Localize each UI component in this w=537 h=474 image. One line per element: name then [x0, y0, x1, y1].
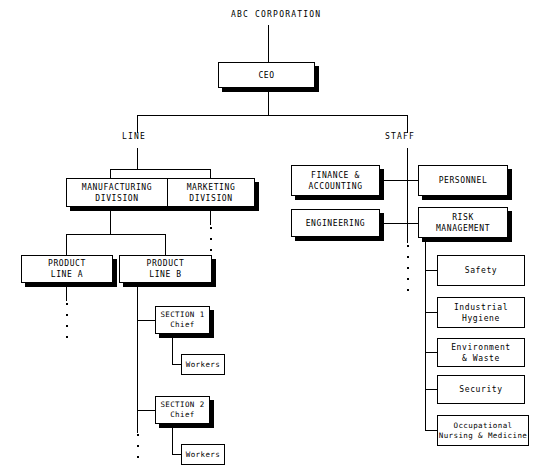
connector-staff-spine	[407, 148, 408, 243]
connector-title-to-ceo	[268, 25, 269, 62]
connector-staff-row-1	[380, 180, 418, 181]
node-safety[interactable]: Safety	[437, 255, 525, 286]
connector-product-line-a-down	[66, 287, 67, 301]
connector-line-bus	[110, 169, 211, 170]
connector-line-down	[137, 148, 138, 170]
connector-bus-to-staff	[407, 115, 408, 133]
node-product-line-a[interactable]: PRODUCT LINE A	[21, 255, 113, 283]
node-engineering[interactable]: ENGINEERING	[291, 209, 380, 237]
connector-ceo-down	[268, 88, 269, 116]
node-section-2-workers[interactable]: Workers	[181, 444, 225, 465]
connector-section-2-down	[172, 424, 173, 455]
connector-to-product-line-a	[66, 234, 67, 255]
connector-ceo-bus	[137, 115, 408, 116]
node-industrial-hygiene[interactable]: Industrial Hygiene	[437, 297, 525, 328]
connector-product-bus	[66, 234, 166, 235]
node-environment-waste[interactable]: Environment & Waste	[437, 338, 525, 367]
node-product-line-b[interactable]: PRODUCT LINE B	[119, 255, 212, 283]
node-security[interactable]: Security	[437, 375, 525, 404]
org-chart-canvas: ABC CORPORATION CEO LINE STAFF MANUFACTU…	[0, 0, 537, 474]
connector-to-section-2	[137, 410, 156, 411]
connector-manufacturing-down	[110, 211, 111, 235]
connector-to-product-line-b	[165, 234, 166, 255]
connector-bus-to-line	[137, 115, 138, 133]
node-section-1-chief[interactable]: SECTION 1 Chief	[155, 306, 210, 334]
ellipsis-staff	[407, 245, 409, 291]
ellipsis-marketing	[210, 227, 212, 251]
node-risk-management[interactable]: RISK MANAGEMENT	[418, 207, 508, 238]
connector-marketing-down	[210, 211, 211, 225]
ellipsis-product-line-a	[66, 303, 68, 345]
company-title: ABC CORPORATION	[231, 10, 321, 19]
branch-label-staff: STAFF	[385, 132, 415, 141]
node-manufacturing-division[interactable]: MANUFACTURING DIVISION	[66, 178, 168, 207]
node-ceo[interactable]: CEO	[218, 62, 315, 88]
node-personnel[interactable]: PERSONNEL	[418, 165, 508, 196]
branch-label-line: LINE	[122, 132, 146, 141]
node-occupational-nursing-medicine[interactable]: Occupational Nursing & Medicine	[437, 415, 529, 446]
connector-to-section-1	[137, 320, 156, 321]
connector-staff-row-2	[380, 223, 418, 224]
node-section-1-workers[interactable]: Workers	[181, 354, 225, 375]
connector-to-manufacturing	[110, 169, 111, 178]
connector-section-1-down	[172, 334, 173, 365]
node-finance-accounting[interactable]: FINANCE & ACCOUNTING	[291, 165, 380, 196]
node-marketing-division[interactable]: MARKETING DIVISION	[167, 178, 255, 207]
ellipsis-product-line-b	[137, 434, 139, 466]
connector-to-marketing	[210, 169, 211, 178]
node-section-2-chief[interactable]: SECTION 2 Chief	[155, 396, 210, 424]
